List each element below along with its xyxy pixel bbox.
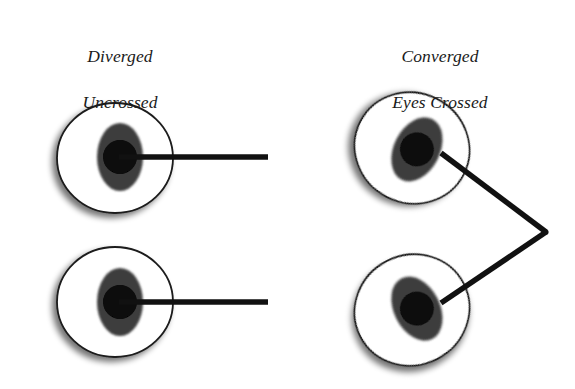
right-lower-eye [335,235,488,386]
convergence-point [543,229,548,234]
eye-convergence-diagram: Diverged Uncrossed Converged Eyes Crosse… [0,0,575,389]
right-upper-sight-line [441,153,546,232]
left-caption-line-1: Diverged [40,45,200,68]
right-lower-sight-line [441,232,546,303]
left-panel-graphics [57,103,268,357]
right-caption-line-1: Converged [360,45,520,68]
left-caption-line-2: Uncrossed [40,91,200,114]
right-panel-caption: Converged Eyes Crossed [360,22,520,137]
left-panel-caption: Diverged Uncrossed [40,22,200,137]
right-caption-line-2: Eyes Crossed [360,91,520,114]
